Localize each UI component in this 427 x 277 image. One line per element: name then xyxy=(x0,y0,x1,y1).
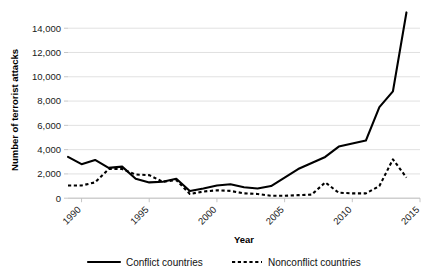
x-tick-label: 2000 xyxy=(196,204,219,227)
y-axis-title: Number of terrorist attacks xyxy=(9,49,20,171)
x-tick-label: 2005 xyxy=(263,204,286,227)
x-tick-label: 1990 xyxy=(60,204,83,227)
y-tick-label: 10,000 xyxy=(32,71,61,82)
y-tick-label: 0 xyxy=(56,193,61,204)
y-axis-ticks: 02,0004,0006,0008,00010,00012,00014,000 xyxy=(32,23,68,204)
x-axis-ticks: 199019952000200520102015 xyxy=(60,198,421,226)
y-tick-label: 8,000 xyxy=(37,95,61,106)
y-tick-label: 12,000 xyxy=(32,47,61,58)
series-line-nonconflict-countries xyxy=(68,159,406,195)
x-tick-label: 1995 xyxy=(128,204,151,227)
gridlines xyxy=(68,28,420,198)
line-chart: 02,0004,0006,0008,00010,00012,00014,000 … xyxy=(0,0,427,277)
legend-label-nonconflict-countries: Nonconflict countries xyxy=(268,257,361,268)
legend-label-conflict-countries: Conflict countries xyxy=(126,257,203,268)
series-line-conflict-countries xyxy=(68,12,406,190)
legend: Conflict countries Nonconflict countries xyxy=(88,257,361,268)
y-tick-label: 2,000 xyxy=(37,168,61,179)
x-tick-label: 2010 xyxy=(331,204,354,227)
plot-series xyxy=(68,12,406,195)
y-tick-label: 4,000 xyxy=(37,144,61,155)
chart-container: 02,0004,0006,0008,00010,00012,00014,000 … xyxy=(0,0,427,277)
x-axis-title: Year xyxy=(234,234,254,245)
y-tick-label: 6,000 xyxy=(37,120,61,131)
y-tick-label: 14,000 xyxy=(32,23,61,34)
x-tick-label: 2015 xyxy=(399,204,422,227)
